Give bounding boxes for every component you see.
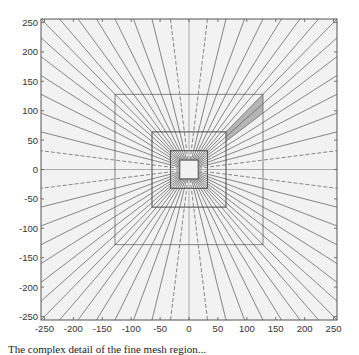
y-tick-label: -50 — [24, 193, 38, 204]
x-tick-label: 250 — [326, 323, 342, 334]
y-tick-label: 200 — [22, 46, 38, 57]
mesh-diagram: -250-200-150-100-50050100150200250 25020… — [0, 0, 359, 355]
x-tick-label: 0 — [186, 323, 191, 334]
y-tick-label: 50 — [27, 135, 38, 146]
y-tick-label: 0 — [33, 164, 38, 175]
y-tick-label: -150 — [19, 252, 38, 263]
x-tick-label: 200 — [297, 323, 313, 334]
y-tick-label: 250 — [22, 17, 38, 28]
x-tick-label: -200 — [64, 323, 83, 334]
figure-caption: The complex detail of the fine mesh regi… — [8, 343, 206, 355]
y-tick-label: 100 — [22, 105, 38, 116]
y-tick-label: 150 — [22, 76, 38, 87]
y-tick-label: -250 — [19, 311, 38, 322]
x-tick-label: 50 — [213, 323, 224, 334]
x-tick-label: -150 — [93, 323, 112, 334]
y-tick-label: -100 — [19, 223, 38, 234]
y-tick-label: -200 — [19, 282, 38, 293]
x-tick-label: -250 — [35, 323, 54, 334]
x-tick-label: 150 — [268, 323, 284, 334]
x-tick-label: -50 — [153, 323, 167, 334]
x-tick-label: 100 — [239, 323, 255, 334]
nested-square — [180, 160, 199, 179]
x-tick-label: -100 — [122, 323, 141, 334]
